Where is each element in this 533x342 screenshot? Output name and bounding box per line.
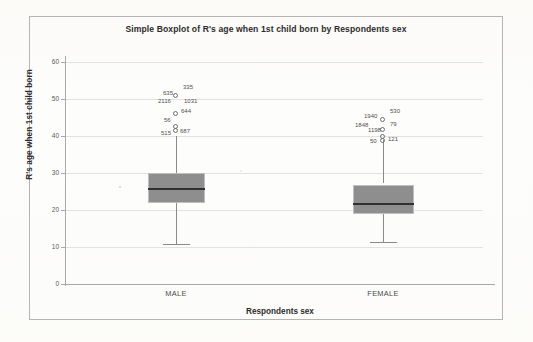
y-tick-label-50: 50 bbox=[33, 95, 59, 102]
male-outlier-label: 335 bbox=[183, 84, 193, 90]
male-outlier-point bbox=[173, 128, 178, 133]
male-outlier-label: 56 bbox=[164, 117, 171, 123]
female-box bbox=[353, 185, 414, 214]
y-tick-mark-0 bbox=[61, 284, 65, 285]
y-tick-label-30: 30 bbox=[33, 169, 59, 176]
female-outlier-label: 121 bbox=[388, 136, 398, 142]
male-outlier-point bbox=[173, 93, 178, 98]
female-whisker-upper bbox=[383, 140, 384, 183]
female-outlier-point bbox=[380, 117, 385, 122]
y-tick-label-60: 60 bbox=[33, 58, 59, 65]
y-tick-label-40: 40 bbox=[33, 132, 59, 139]
female-outlier-point bbox=[380, 138, 385, 143]
gridline-30 bbox=[65, 173, 483, 174]
x-tick-label-female: FEMALE bbox=[338, 289, 428, 298]
y-tick-label-10: 10 bbox=[33, 243, 59, 250]
male-outlier-label: 1031 bbox=[184, 98, 197, 104]
scan-speck bbox=[119, 186, 121, 188]
scan-speck bbox=[240, 170, 242, 172]
male-median-line bbox=[148, 188, 205, 190]
male-cap-lower bbox=[163, 244, 190, 245]
male-outlier-label: 515 bbox=[161, 130, 171, 136]
y-axis-line bbox=[65, 56, 66, 286]
female-cap-lower bbox=[370, 242, 397, 243]
female-whisker-lower bbox=[383, 214, 384, 242]
female-outlier-label: 530 bbox=[390, 108, 400, 114]
female-median-line bbox=[353, 203, 414, 205]
female-outlier-label: 50 bbox=[370, 138, 377, 144]
gridline-60 bbox=[65, 62, 483, 63]
male-whisker-upper bbox=[176, 136, 177, 173]
female-outlier-label: 1848 bbox=[355, 122, 368, 128]
y-tick-mark-50 bbox=[61, 99, 65, 100]
gridline-50 bbox=[65, 99, 483, 100]
female-outlier-label: 1940 bbox=[364, 113, 377, 119]
male-outlier-label: 644 bbox=[181, 108, 191, 114]
y-tick-mark-20 bbox=[61, 210, 65, 211]
male-outlier-point bbox=[173, 111, 178, 116]
y-tick-label-0: 0 bbox=[33, 280, 59, 287]
female-outlier-label: 1198 bbox=[368, 127, 381, 133]
gridline-20 bbox=[65, 210, 483, 211]
x-axis-title: Respondents sex bbox=[65, 307, 495, 316]
y-axis-title: R's age when 1st child born bbox=[25, 50, 34, 200]
y-tick-mark-40 bbox=[61, 136, 65, 137]
y-tick-label-20: 20 bbox=[33, 206, 59, 213]
gridline-40 bbox=[65, 136, 483, 137]
female-outlier-label: 79 bbox=[390, 121, 397, 127]
scanned-page: Simple Boxplot of R's age when 1st child… bbox=[0, 0, 533, 342]
male-outlier-label: 2116 bbox=[158, 98, 171, 104]
gridline-10 bbox=[65, 247, 483, 248]
y-tick-mark-10 bbox=[61, 247, 65, 248]
chart-title: Simple Boxplot of R's age when 1st child… bbox=[29, 24, 503, 34]
male-outlier-label: 687 bbox=[180, 128, 190, 134]
y-tick-mark-30 bbox=[61, 173, 65, 174]
x-tick-label-male: MALE bbox=[131, 289, 221, 298]
y-tick-mark-60 bbox=[61, 62, 65, 63]
male-whisker-lower bbox=[176, 203, 177, 244]
x-axis-line bbox=[65, 284, 495, 285]
male-outlier-label: 635 bbox=[163, 90, 173, 96]
